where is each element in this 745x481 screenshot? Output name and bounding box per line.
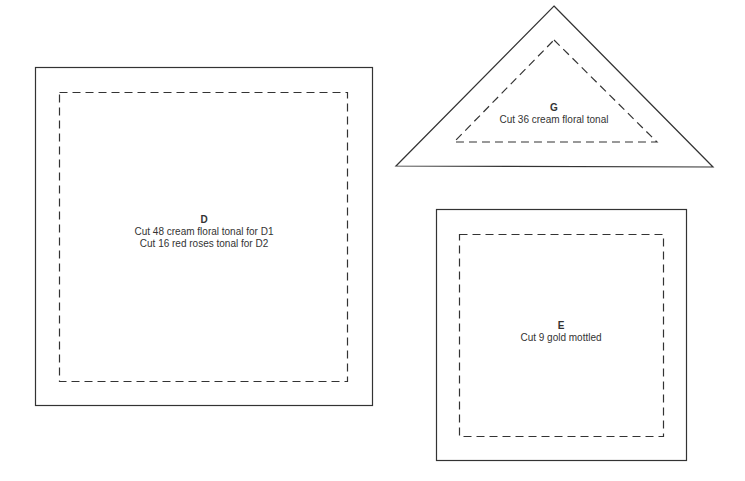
piece-e-letter: E	[491, 320, 631, 332]
piece-e-instruction-1: Cut 9 gold mottled	[491, 332, 631, 344]
piece-d-instruction-1: Cut 48 cream floral tonal for D1	[104, 226, 304, 238]
piece-g-letter: G	[484, 102, 624, 114]
piece-g-label: G Cut 36 cream floral tonal	[484, 102, 624, 126]
piece-d-letter: D	[104, 214, 304, 226]
piece-d-instruction-2: Cut 16 red roses tonal for D2	[104, 238, 304, 250]
piece-g-instruction-1: Cut 36 cream floral tonal	[484, 114, 624, 126]
piece-g-sewing-line	[454, 40, 657, 142]
piece-e-label: E Cut 9 gold mottled	[491, 320, 631, 344]
piece-g-cutting-line	[396, 6, 713, 167]
piece-d-label: D Cut 48 cream floral tonal for D1 Cut 1…	[104, 214, 304, 250]
piece-g	[396, 6, 713, 167]
